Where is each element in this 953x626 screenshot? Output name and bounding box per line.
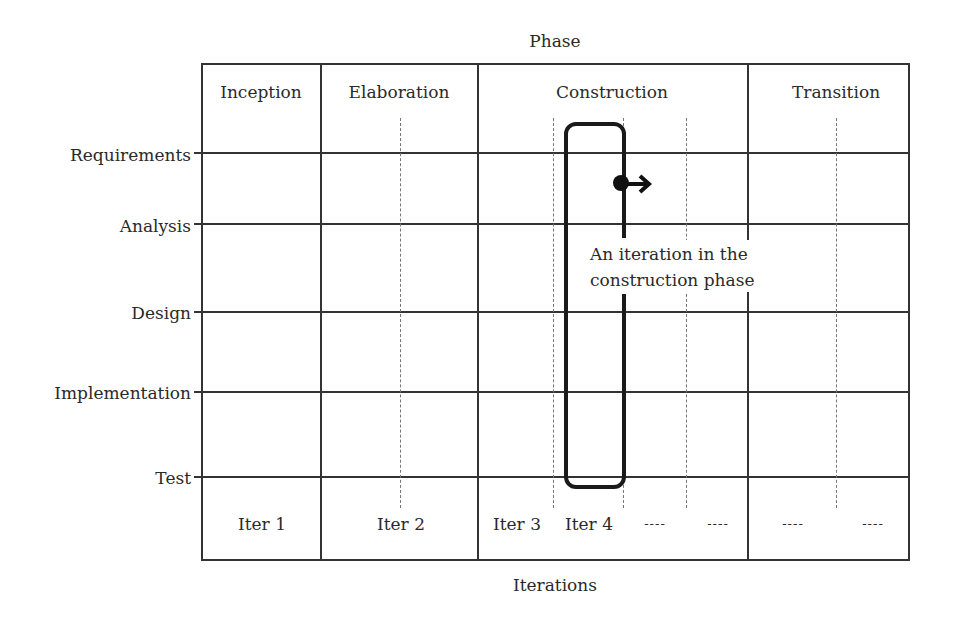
iteration-boundary-2 [553, 118, 554, 508]
phase-transition: Transition [792, 82, 880, 102]
iteration-5-placeholder: ---- [644, 514, 666, 534]
row-divider-implementation [194, 391, 909, 393]
iteration-boundary-1 [400, 118, 401, 508]
row-divider-test [194, 476, 909, 478]
annotation-line-1: An iteration in the [590, 244, 748, 264]
iteration-7-placeholder: ---- [782, 514, 804, 534]
workflow-design: Design [20, 303, 191, 323]
phase-inception: Inception [220, 82, 302, 102]
iteration-boundary-4 [686, 118, 687, 508]
phase-elaboration: Elaboration [349, 82, 450, 102]
workflow-test: Test [20, 468, 191, 488]
phase-axis-title: Phase [529, 31, 580, 51]
workflow-implementation: Implementation [20, 383, 191, 403]
phase-divider-3 [747, 63, 749, 560]
row-divider-design [194, 311, 909, 313]
phase-divider-1 [320, 63, 322, 560]
phase-divider-2 [477, 63, 479, 560]
workflow-analysis: Analysis [20, 216, 191, 236]
row-divider-analysis [194, 223, 909, 225]
annotation-line-2: construction phase [590, 270, 754, 290]
phase-construction: Construction [556, 82, 668, 102]
iteration-boundary-5 [836, 118, 837, 508]
arrow-right-icon [620, 173, 654, 195]
iteration-8-placeholder: ---- [862, 514, 884, 534]
iteration-4: Iter 4 [565, 514, 613, 534]
row-divider-requirements [194, 152, 909, 154]
iterations-axis-title: Iterations [513, 575, 597, 595]
workflow-requirements: Requirements [20, 145, 191, 165]
iteration-6-placeholder: ---- [707, 514, 729, 534]
iteration-2: Iter 2 [377, 514, 425, 534]
iteration-1: Iter 1 [238, 514, 286, 534]
iteration-3: Iter 3 [493, 514, 541, 534]
